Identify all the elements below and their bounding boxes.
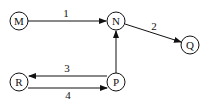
- node-r: R: [10, 73, 28, 91]
- edge-label-3: 3: [64, 62, 70, 74]
- edge-label-2: 2: [151, 20, 157, 32]
- node-label-q: Q: [186, 39, 194, 51]
- edge-label-4: 4: [65, 89, 71, 100]
- node-p: P: [107, 73, 125, 91]
- node-label-r: R: [15, 76, 23, 88]
- graph-diagram: 1 2 3 4 M N Q R P: [0, 0, 209, 100]
- node-q: Q: [181, 36, 199, 54]
- node-label-m: M: [14, 15, 24, 27]
- graph-svg: 1 2 3 4 M N Q R P: [0, 0, 209, 100]
- node-m: M: [10, 12, 28, 30]
- edge-n-q: 2: [125, 20, 181, 42]
- edge-label-1: 1: [63, 7, 69, 19]
- edge-r-p: 4: [28, 88, 107, 100]
- node-label-n: N: [112, 15, 120, 27]
- node-n: N: [107, 12, 125, 30]
- edge-m-n: 1: [28, 7, 106, 21]
- node-label-p: P: [113, 76, 119, 88]
- edge-p-r: 3: [29, 62, 107, 76]
